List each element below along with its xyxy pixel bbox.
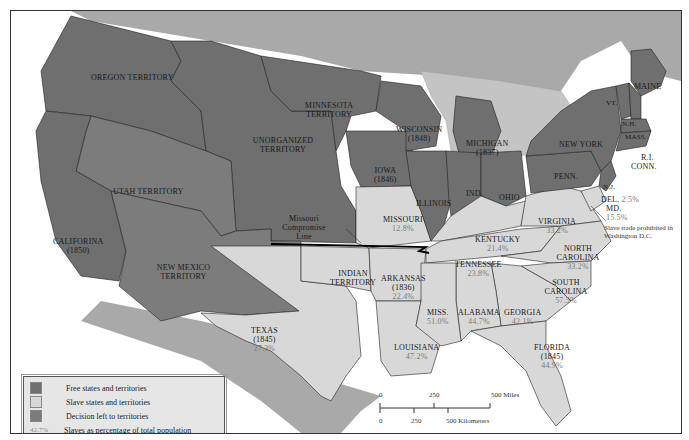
label-california: CALIFORINA(1850) — [53, 237, 103, 255]
label-massachusetts: MASS. — [625, 133, 647, 141]
label-mississippi: MISS.51.0% — [427, 308, 449, 326]
legend-label-slave: Slave states and territories — [66, 398, 150, 407]
label-indiana: IND. — [466, 189, 483, 198]
scale-bar: 0 250 500 Miles 0 250 500 Kilometers — [379, 391, 529, 431]
label-texas: TEXAS(1845)27.3% — [251, 326, 278, 353]
label-tennessee: TENNESSEE23.8% — [455, 260, 502, 278]
label-utah-territory: UTAH TERRITORY — [113, 187, 184, 196]
legend-item-free: Free states and territories — [30, 382, 147, 394]
scale-miles-250: 250 — [429, 391, 440, 399]
scale-miles-500: 500 Miles — [491, 391, 519, 399]
legend-label-decision: Decision left to territories — [66, 412, 148, 421]
label-minnesota-territory: MINNESOTA TERRITORY — [294, 101, 364, 119]
legend-swatch-decision — [30, 410, 42, 422]
label-alabama: ALABAMA44.7% — [458, 308, 500, 326]
label-louisiana: LOUISIANA47.2% — [394, 343, 439, 361]
label-georgia: GEORGIA42.1% — [504, 308, 541, 326]
legend-pct-key: 42.7% — [30, 426, 64, 434]
label-new-jersey: N.J. — [603, 183, 615, 191]
label-illinois: ILLINOIS — [416, 199, 451, 208]
label-virginia: VIRGINIA33.2% — [538, 217, 576, 235]
legend-item-slave: Slave states and territories — [30, 396, 150, 408]
legend-swatch-slave — [30, 396, 42, 408]
scale-km-500: 500 Kilometers — [446, 417, 489, 425]
label-missouri: MISSOURI12.8% — [383, 215, 423, 233]
legend-item-decision: Decision left to territories — [30, 410, 148, 422]
label-connecticut: CONN. — [631, 162, 657, 171]
label-florida: FLORIDA(1845)44.9% — [534, 343, 570, 370]
label-pennsylvania: PENN. — [554, 172, 578, 181]
legend-swatch-free — [30, 382, 42, 394]
map-legend: Free states and territories Slave states… — [23, 376, 225, 434]
scale-km-0: 0 — [379, 417, 383, 425]
label-rhode-island: R.I. — [641, 153, 654, 162]
label-indian-territory: INDIAN TERRITORY — [323, 269, 383, 287]
map-frame: OREGON TERRITORY MINNESOTA TERRITORY UNO… — [10, 10, 682, 434]
label-iowa: IOWA(1846) — [374, 166, 397, 184]
label-new-hampshire: N.H. — [622, 120, 636, 128]
scale-miles-0: 0 — [379, 391, 383, 399]
legend-label-percentage: Slaves as percentage of total population — [64, 426, 191, 435]
label-new-york: NEW YORK — [559, 140, 603, 149]
label-delaware: DEL. 2.5% — [601, 195, 639, 204]
label-dc-slave-trade-note: Slave trade prohibited in Washington D.C… — [604, 224, 676, 240]
label-missouri-compromise-line: Missouri Compromise Line — [279, 214, 329, 241]
label-new-mexico-territory: NEW MEXICO TERRITORY — [151, 263, 216, 281]
label-maine: MAINE — [634, 82, 661, 91]
label-ohio: OHIO — [499, 193, 520, 202]
legend-item-percentage: 42.7% Slaves as percentage of total popu… — [30, 424, 191, 434]
label-oregon-territory: OREGON TERRITORY — [91, 73, 174, 82]
label-vermont: VT. — [606, 99, 617, 107]
label-unorganized-territory: UNORGANIZED TERRITORY — [243, 136, 323, 154]
label-wisconsin: WISCONSIN(1848) — [396, 125, 442, 143]
label-south-carolina: SOUTH CAROLINA57.5% — [536, 278, 596, 305]
scale-line — [379, 401, 499, 415]
scale-km-250: 250 — [411, 417, 422, 425]
label-north-carolina: NORTH CAROLINA33.2% — [548, 244, 608, 271]
legend-label-free: Free states and territories — [66, 384, 147, 393]
label-michigan: MICHIGAN(1837) — [466, 139, 509, 157]
label-kentucky: KENTUCKY21.4% — [475, 235, 521, 253]
label-arkansas: ARKANSAS(1836)22.4% — [381, 274, 426, 301]
label-maryland: MD.15.5% — [606, 204, 628, 222]
